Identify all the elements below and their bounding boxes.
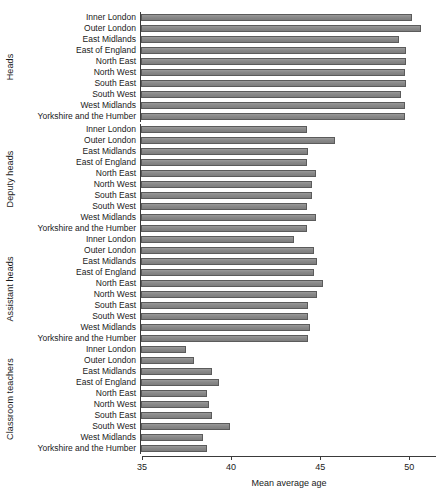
bar [141, 357, 194, 364]
bar-slot [141, 278, 444, 289]
chart-container: HeadsInner LondonOuter LondonEast Midlan… [0, 0, 444, 498]
bar [141, 91, 401, 98]
bar-slot [141, 168, 444, 179]
category-label: Yorkshire and the Humber [20, 223, 140, 234]
bar [141, 36, 399, 43]
category-label: East Midlands [20, 366, 140, 377]
x-tick [320, 456, 321, 460]
bar-slot [141, 399, 444, 410]
facet-assistant-heads: Assistant headsInner LondonOuter LondonE… [0, 234, 444, 344]
bar [141, 159, 307, 166]
bar [141, 302, 308, 309]
facet-plot-area [140, 344, 444, 454]
category-label: Yorkshire and the Humber [20, 333, 140, 344]
category-label: South East [20, 190, 140, 201]
bar-slot [141, 289, 444, 300]
facet-plot-area [140, 124, 444, 234]
bar-list [141, 344, 444, 454]
bar [141, 192, 312, 199]
bar-slot [141, 89, 444, 100]
bar [141, 102, 405, 109]
bar [141, 269, 314, 276]
facet-title-label: Deputy heads [5, 151, 15, 208]
bar-slot [141, 146, 444, 157]
bar-list [141, 12, 444, 122]
bar [141, 335, 308, 342]
category-label: South East [20, 78, 140, 89]
x-tick-label: 50 [404, 462, 414, 472]
category-label: East Midlands [20, 34, 140, 45]
category-label: Inner London [20, 344, 140, 355]
category-label-list: Inner LondonOuter LondonEast MidlandsEas… [20, 12, 140, 122]
bar-slot [141, 23, 444, 34]
category-label: Outer London [20, 355, 140, 366]
bar [141, 113, 405, 120]
category-label: Outer London [20, 135, 140, 146]
bar-slot [141, 333, 444, 344]
bar-slot [141, 45, 444, 56]
bar [141, 346, 186, 353]
bar [141, 412, 212, 419]
bar [141, 280, 323, 287]
facet-title: Deputy heads [0, 124, 20, 234]
bar [141, 258, 317, 265]
facet-title: Classroom teachers [0, 344, 20, 454]
bar [141, 69, 405, 76]
category-label: West Midlands [20, 432, 140, 443]
bar-slot [141, 355, 444, 366]
bar-slot [141, 256, 444, 267]
bar-slot [141, 388, 444, 399]
bar-slot [141, 322, 444, 333]
category-label: North East [20, 56, 140, 67]
bar [141, 214, 316, 221]
category-label: West Midlands [20, 322, 140, 333]
bar-list [141, 124, 444, 234]
bar [141, 401, 209, 408]
category-label: East Midlands [20, 256, 140, 267]
category-label: South East [20, 300, 140, 311]
bar-slot [141, 421, 444, 432]
bar [141, 80, 406, 87]
facet-deputy-heads: Deputy headsInner LondonOuter LondonEast… [0, 124, 444, 234]
facet-heads: HeadsInner LondonOuter LondonEast Midlan… [0, 12, 444, 122]
bar [141, 390, 207, 397]
x-tick [231, 456, 232, 460]
facet-classroom-teachers: Classroom teachersInner LondonOuter Lond… [0, 344, 444, 454]
bar-slot [141, 124, 444, 135]
bar-slot [141, 179, 444, 190]
bar [141, 324, 310, 331]
category-label: North East [20, 278, 140, 289]
category-label: East of England [20, 157, 140, 168]
bar [141, 434, 203, 441]
bar [141, 423, 230, 430]
bar-slot [141, 311, 444, 322]
category-label: Outer London [20, 245, 140, 256]
facet-title-label: Assistant heads [5, 256, 15, 321]
category-label: Inner London [20, 234, 140, 245]
bar [141, 445, 207, 452]
x-axis-line [142, 456, 436, 457]
category-label: North East [20, 388, 140, 399]
bar [141, 247, 314, 254]
bar [141, 14, 412, 21]
bar-slot [141, 344, 444, 355]
bar-slot [141, 366, 444, 377]
category-label: East of England [20, 377, 140, 388]
x-tick [409, 456, 410, 460]
bar [141, 291, 317, 298]
bar-list [141, 234, 444, 344]
bar-slot [141, 78, 444, 89]
facet-plot-area [140, 12, 444, 122]
category-label: North East [20, 168, 140, 179]
bar-slot [141, 111, 444, 122]
category-label: North West [20, 179, 140, 190]
facet-title: Assistant heads [0, 234, 20, 344]
x-axis: 35404550 Mean average age [0, 456, 444, 498]
bar [141, 368, 212, 375]
category-label: North West [20, 399, 140, 410]
category-label: Outer London [20, 23, 140, 34]
bar [141, 126, 307, 133]
bar-slot [141, 300, 444, 311]
bar [141, 236, 294, 243]
bar-slot [141, 223, 444, 234]
